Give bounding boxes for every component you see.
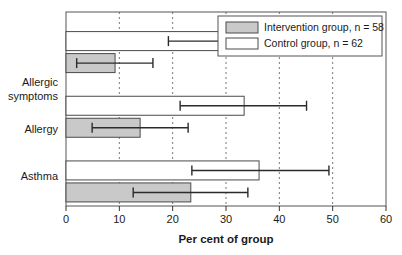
x-axis-tick-label: 40 [273, 213, 285, 225]
x-axis-title: Per cent of group [178, 233, 273, 245]
category-label-allergy: Allergy [24, 123, 58, 135]
legend-swatch-intervention [226, 22, 258, 33]
legend-label-intervention: Intervention group, n = 58 [264, 21, 384, 33]
legend-label-control: Control group, n = 62 [264, 37, 363, 49]
x-axis-tick-label: 0 [63, 213, 69, 225]
x-axis-tick-label: 30 [220, 213, 232, 225]
category-label-allergic-symptoms-line2: symptoms [8, 90, 59, 102]
x-axis-tick-label: 60 [380, 213, 392, 225]
category-label-asthma: Asthma [21, 170, 59, 182]
x-axis-tick-label: 50 [327, 213, 339, 225]
bars-group [66, 32, 259, 202]
chart-container: 0102030405060 Allergic symptoms Allergy … [0, 0, 402, 255]
bar-chart: 0102030405060 Allergic symptoms Allergy … [0, 0, 402, 255]
x-axis-tick-label: 10 [113, 213, 125, 225]
x-axis-ticks [66, 206, 386, 211]
legend-swatch-control [226, 38, 258, 49]
category-labels: Allergic symptoms Allergy Asthma [8, 76, 59, 182]
category-label-allergic-symptoms-line1: Allergic [22, 76, 59, 88]
x-axis-tick-label: 20 [167, 213, 179, 225]
legend: Intervention group, n = 58 Control group… [218, 16, 384, 56]
x-axis-tick-labels: 0102030405060 [63, 213, 392, 225]
